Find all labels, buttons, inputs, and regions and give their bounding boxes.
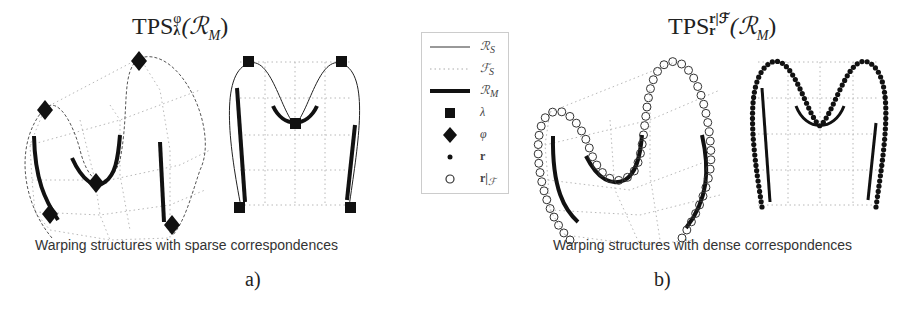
panel-b-rigid-structure (748, 50, 898, 220)
model-structure-left (762, 88, 770, 202)
panel-b-title: TPSr|ℱr(ℛM) (668, 12, 776, 44)
model-structure-right (868, 123, 876, 200)
panel-a-label: a) (245, 268, 261, 291)
legend-sub: M (490, 88, 498, 99)
title-arg-sub: M (757, 28, 769, 43)
legend-item-lambda: λ (422, 103, 508, 123)
legend-label: r (480, 149, 485, 164)
title-base: TPS (132, 13, 173, 39)
panel-b-warped-structure (540, 50, 740, 250)
title-arg: (ℛ (181, 13, 208, 39)
legend-label: λ (480, 105, 485, 120)
panel-a-caption: Warping structures with sparse correspon… (35, 237, 338, 253)
legend-item-fs: ℱS (422, 59, 508, 79)
panel-b-caption: Warping structures with dense correspond… (553, 237, 852, 253)
model-structure-right (686, 135, 706, 228)
panel-a-warped-structure (20, 50, 220, 250)
model-structure-mid (796, 106, 844, 126)
title-arg: (ℛ (730, 13, 757, 39)
model-structure-left (237, 88, 245, 202)
title-arg-sub: M (208, 28, 220, 43)
model-structure-left (34, 136, 58, 220)
title-sub: λ (173, 25, 181, 37)
thick-line-icon (430, 81, 474, 101)
dotted-line-icon (430, 59, 474, 79)
legend-item-r: r (422, 147, 508, 167)
square-icon (430, 103, 474, 123)
legend-sub: S (490, 44, 495, 55)
grid (758, 62, 878, 205)
panel-a-title: TPSφλ(ℛM) (132, 12, 228, 44)
legend-label: r| (480, 171, 488, 185)
title-close: ) (768, 13, 776, 39)
title-sub: r (709, 25, 729, 37)
model-structure-right (160, 142, 164, 222)
legend-sub: S (489, 66, 494, 77)
legend-label: ℛ (480, 39, 490, 53)
open-circle-icon (430, 169, 474, 189)
legend-label: ℱ (480, 61, 489, 75)
thin-line-icon (430, 37, 474, 57)
panel-a-rigid-structure (225, 50, 365, 220)
legend-item-rf: r|ℱ (422, 169, 508, 189)
panel-b-label: b) (654, 268, 671, 291)
legend-label: ℛ (480, 83, 490, 97)
legend-item-rs: ℛS (422, 37, 508, 57)
legend-item-phi: φ (422, 125, 508, 145)
legend-sub: ℱ (488, 176, 496, 187)
legend-label: φ (480, 127, 487, 142)
model-structure-left (553, 136, 578, 222)
diamond-icon (430, 125, 474, 145)
dot-icon (430, 147, 474, 167)
title-close: ) (220, 13, 228, 39)
dot-markers (750, 59, 889, 210)
grid (240, 62, 350, 205)
model-structure-right (347, 125, 355, 200)
title-base: TPS (668, 13, 709, 39)
legend-item-rm: ℛM (422, 81, 508, 101)
open-circle-markers (534, 58, 715, 244)
legend: ℛS ℱS ℛM λ φ r r|ℱ (421, 32, 509, 194)
